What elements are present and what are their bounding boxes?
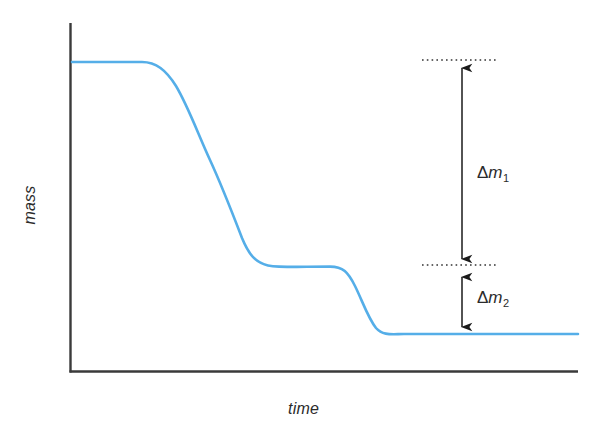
figure-background — [0, 0, 609, 435]
x-axis-title: time — [288, 400, 319, 418]
delta-m1-symbol: Δ — [477, 163, 488, 182]
mass-vs-time-figure — [0, 0, 609, 435]
y-axis-title: mass — [21, 185, 39, 224]
delta-m2-subscript: 2 — [503, 297, 509, 309]
delta-m2-variable: m — [488, 288, 502, 307]
delta-m2-label: Δm2 — [477, 288, 509, 308]
delta-m1-subscript: 1 — [503, 172, 509, 184]
delta-m2-symbol: Δ — [477, 288, 488, 307]
delta-m1-variable: m — [488, 163, 502, 182]
delta-m1-label: Δm1 — [477, 163, 509, 183]
